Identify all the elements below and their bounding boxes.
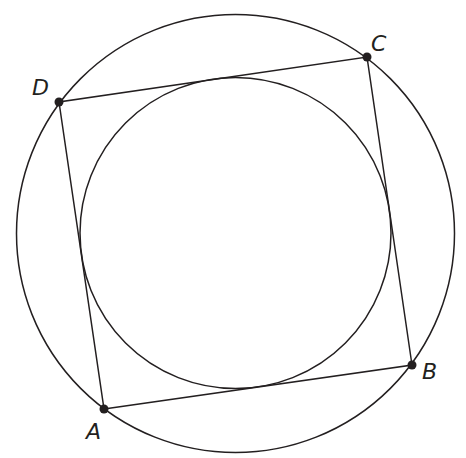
point-d: [55, 98, 64, 107]
square-abcd: [59, 57, 412, 409]
point-b: [408, 361, 417, 370]
label-b: B: [422, 361, 437, 383]
point-a: [100, 405, 109, 414]
geometry-figure: [0, 0, 466, 458]
circumscribed-circle: [17, 15, 455, 453]
label-d: D: [32, 77, 49, 99]
label-c: C: [371, 33, 386, 55]
label-a: A: [86, 421, 101, 443]
inscribed-circle: [80, 78, 391, 389]
